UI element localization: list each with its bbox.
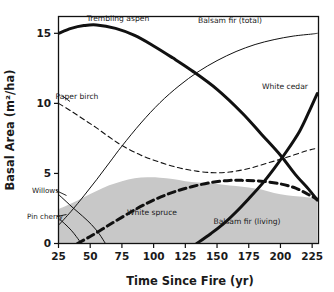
annot-paper-birch: Paper birch bbox=[56, 92, 99, 101]
x-tick-label: 50 bbox=[83, 250, 98, 262]
y-tick-label: 0 bbox=[44, 237, 51, 249]
annot-white-spruce: White spruce bbox=[127, 208, 177, 217]
x-tick-label: 175 bbox=[238, 250, 260, 262]
annot-balsam-fir-total: Balsam fir (total) bbox=[198, 16, 262, 25]
x-tick-label: 225 bbox=[301, 250, 323, 262]
x-tick-label: 75 bbox=[115, 250, 130, 262]
x-tick-label: 25 bbox=[51, 250, 66, 262]
basal-area-chart: Basal Area (m²/ha) Time Since Fire (yr) … bbox=[0, 0, 334, 292]
x-tick-label: 125 bbox=[174, 250, 196, 262]
annot-trembling-aspen: Trembling aspen bbox=[86, 14, 150, 23]
y-tick-label: 5 bbox=[44, 167, 51, 179]
x-tick-label: 200 bbox=[269, 250, 291, 262]
y-axis-title: Basal Area (m²/ha) bbox=[3, 70, 17, 191]
x-axis-title: Time Since Fire (yr) bbox=[126, 274, 254, 288]
annot-balsam-fir-living: Balsam fir (living) bbox=[213, 217, 280, 226]
chart-figure: Basal Area (m²/ha) Time Since Fire (yr) … bbox=[0, 0, 334, 292]
x-tick-label: 100 bbox=[143, 250, 165, 262]
x-tick-label: 150 bbox=[206, 250, 228, 262]
y-tick-label: 15 bbox=[36, 27, 51, 39]
annot-willows: Willows bbox=[32, 186, 59, 195]
annot-white-cedar: White cedar bbox=[262, 82, 309, 91]
y-tick-label: 10 bbox=[36, 97, 51, 109]
